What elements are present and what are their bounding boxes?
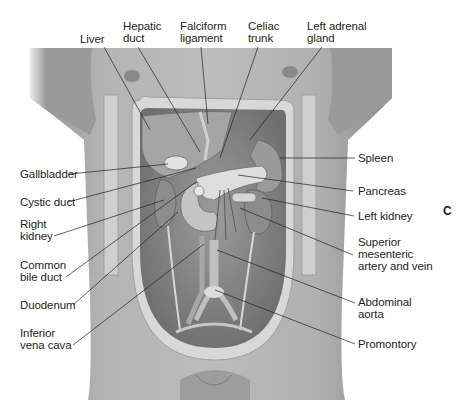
label-pancreas: Pancreas — [358, 185, 406, 197]
label-gallbladder: Gallbladder — [20, 168, 78, 180]
label-promontory: Promontory — [358, 338, 416, 350]
label-spleen: Spleen — [358, 152, 393, 164]
label-duodenum: Duodenum — [20, 299, 75, 311]
label-liver: Liver — [80, 33, 104, 45]
panel-letter: C — [443, 204, 452, 218]
label-common-bile-duct: Common bile duct — [20, 259, 66, 283]
label-right-kidney: Right kidney — [20, 218, 53, 242]
label-left-adrenal-gland: Left adrenal gland — [307, 20, 367, 44]
label-left-kidney: Left kidney — [358, 210, 413, 222]
gallbladder-shape — [164, 156, 188, 170]
label-abdominal-aorta: Abdominal aorta — [358, 296, 411, 320]
label-cystic-duct: Cystic duct — [20, 196, 75, 208]
label-hepatic-duct: Hepatic duct — [123, 20, 161, 44]
label-celiac-trunk: Celiac trunk — [248, 20, 279, 44]
label-falciform-ligament: Falciform ligament — [180, 20, 226, 44]
label-superior-mesenteric: Superior mesenteric artery and vein — [358, 236, 433, 272]
label-inferior-vena-cava: Inferior vena cava — [20, 327, 72, 351]
